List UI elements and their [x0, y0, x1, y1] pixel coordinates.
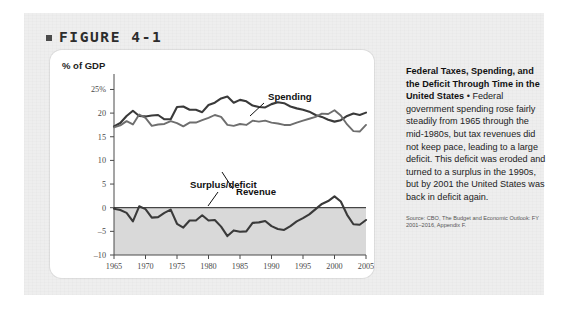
svg-text:0: 0	[102, 204, 106, 213]
square-bullet-icon	[46, 35, 52, 41]
caption-text: Federal government spending rose fairly …	[406, 91, 545, 202]
caption-column: Federal Taxes, Spending, and the Deficit…	[406, 65, 548, 230]
svg-text:25%: 25%	[91, 85, 106, 94]
chart-card: % of GDP 25%20151050–5–10196519701975198…	[50, 50, 374, 278]
figure-page: FIGURE 4-1 % of GDP 25%20151050–5–101965…	[0, 0, 568, 328]
svg-text:1980: 1980	[200, 262, 216, 271]
svg-text:1990: 1990	[263, 262, 279, 271]
surplus-deficit-leader-line	[208, 192, 218, 206]
figure-label: FIGURE 4-1	[59, 29, 162, 45]
svg-text:–10: –10	[93, 251, 106, 260]
svg-text:–5: –5	[97, 227, 106, 236]
plot-area: 25%20151050–5–10196519701975198019851990…	[50, 50, 374, 278]
surplus-deficit-label: Surplus/deficit	[190, 179, 257, 190]
caption-body: Federal Taxes, Spending, and the Deficit…	[406, 65, 548, 204]
svg-text:5: 5	[102, 180, 106, 189]
figure-panel: FIGURE 4-1 % of GDP 25%20151050–5–101965…	[24, 13, 544, 295]
spending-label: Spending	[268, 91, 312, 102]
svg-text:2000: 2000	[326, 262, 342, 271]
series-line-spending	[114, 97, 366, 127]
series-line-revenue	[114, 110, 366, 131]
figure-heading: FIGURE 4-1	[46, 29, 162, 45]
svg-text:20: 20	[98, 109, 106, 118]
svg-text:1985: 1985	[232, 262, 248, 271]
line-chart-svg: 25%20151050–5–10196519701975198019851990…	[50, 50, 374, 278]
svg-text:15: 15	[98, 133, 106, 142]
svg-text:1995: 1995	[295, 262, 311, 271]
svg-text:1970: 1970	[137, 262, 153, 271]
svg-text:10: 10	[98, 156, 106, 165]
svg-text:1965: 1965	[106, 262, 122, 271]
caption-source: Source: CBO, The Budget and Economic Out…	[406, 215, 548, 230]
svg-text:1975: 1975	[169, 262, 185, 271]
svg-text:2005: 2005	[358, 262, 374, 271]
